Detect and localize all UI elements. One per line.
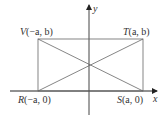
point-label-S: S(a, 0)	[117, 94, 143, 106]
y-axis-label: y	[92, 3, 98, 14]
point-label-T: T(a, b)	[123, 26, 150, 38]
point-label-V: V(−a, b)	[20, 26, 53, 38]
point-label-R: R(−a, 0)	[17, 94, 51, 106]
x-axis-label: x	[152, 93, 158, 104]
coordinate-diagram: y x V(−a, b) T(a, b) R(−a, 0) S(a, 0)	[0, 0, 168, 120]
